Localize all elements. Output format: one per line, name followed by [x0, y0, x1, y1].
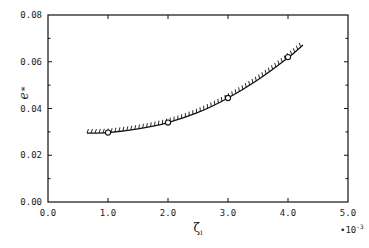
data-point-circle: [105, 130, 110, 135]
x-tick-label: 0.0: [40, 208, 56, 218]
data-curve: [87, 45, 303, 133]
axis-ticks: [48, 15, 348, 202]
x-axis-multiplier: •10-3: [340, 223, 364, 235]
y-axis-label: e*: [17, 86, 31, 99]
y-tick-labels: 0.000.020.040.060.08: [20, 10, 42, 207]
data-point-circle: [285, 54, 290, 59]
data-point-circle: [165, 120, 170, 125]
y-tick-label: 0.06: [20, 57, 42, 67]
y-tick-label: 0.00: [20, 197, 42, 207]
plot-frame: [48, 15, 348, 202]
x-tick-label: 1.0: [100, 208, 116, 218]
x-tick-label: 3.0: [220, 208, 236, 218]
y-tick-label: 0.04: [20, 104, 42, 114]
x-tick-label: 5.0: [340, 208, 356, 218]
data-point-circle: [225, 95, 230, 100]
chart: 0.000.020.040.060.08 0.01.02.03.04.05.0 …: [0, 0, 369, 248]
x-tick-label: 2.0: [160, 208, 176, 218]
y-tick-label: 0.02: [20, 150, 42, 160]
x-axis-label: ζi: [194, 221, 204, 237]
x-tick-labels: 0.01.02.03.04.05.0: [40, 208, 356, 218]
x-tick-label: 4.0: [280, 208, 296, 218]
data-points: [105, 54, 290, 135]
y-tick-label: 0.08: [20, 10, 42, 20]
curve-hatching: [87, 43, 301, 133]
